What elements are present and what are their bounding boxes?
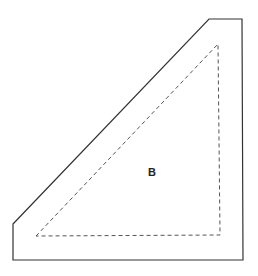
region-label: B — [148, 166, 156, 178]
inner-dashed-boundary — [36, 44, 220, 236]
diagram-canvas: B — [0, 0, 258, 276]
